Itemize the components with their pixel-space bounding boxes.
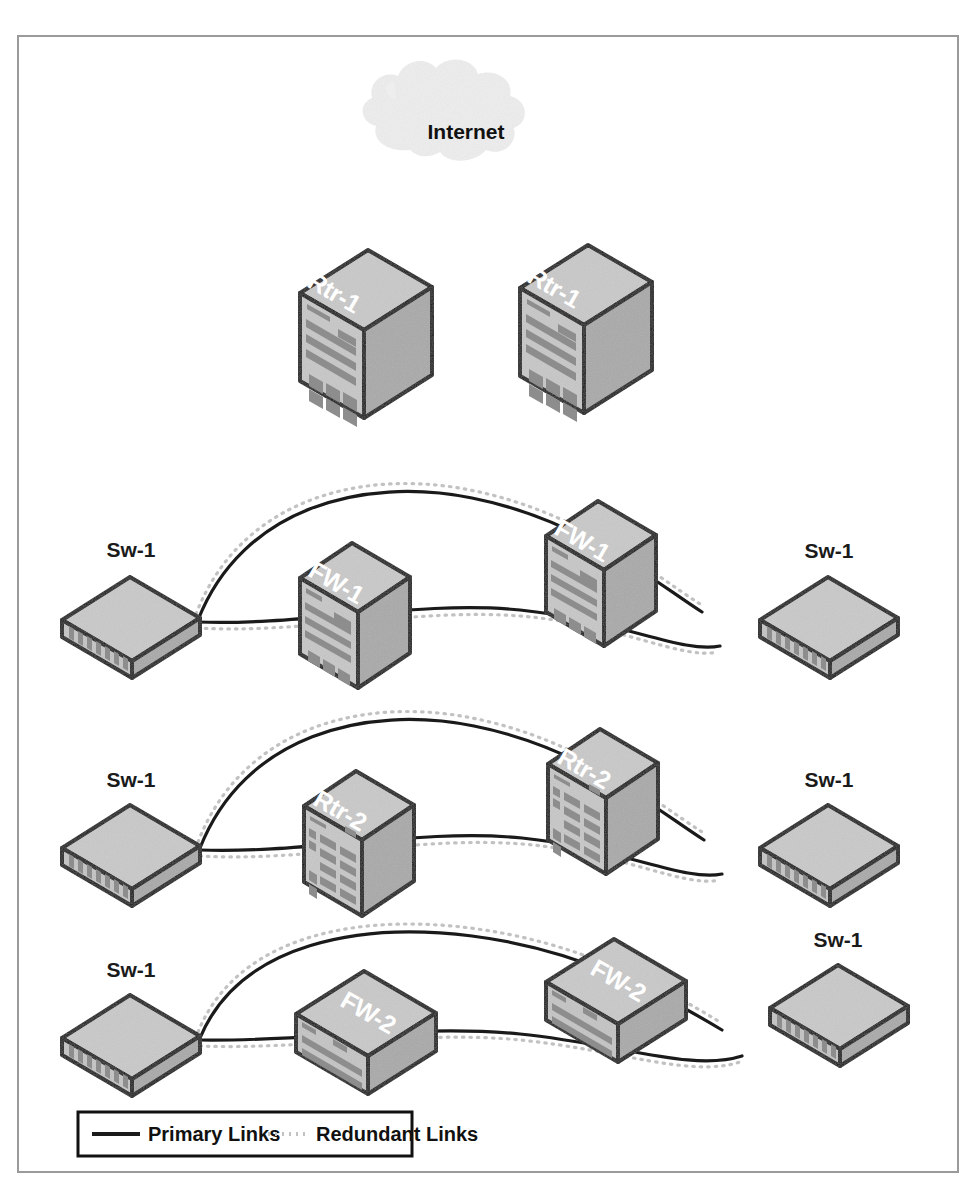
legend-primary-label: Primary Links [148,1123,280,1145]
network-diagram: Internet [0,0,969,1190]
device-label-sw1-r2-right: Sw-1 [804,768,853,791]
device-label-sw1-r2-left: Sw-1 [106,768,155,791]
legend-redundant-label: Redundant Links [316,1123,478,1145]
internet-cloud-label: Internet [427,120,504,143]
device-label-sw1-r3-right: Sw-1 [813,928,862,951]
device-label-sw1-r1-right: Sw-1 [804,539,853,562]
device-label-sw1-r1-left: Sw-1 [106,538,155,561]
device-label-sw1-r3-left: Sw-1 [106,958,155,981]
